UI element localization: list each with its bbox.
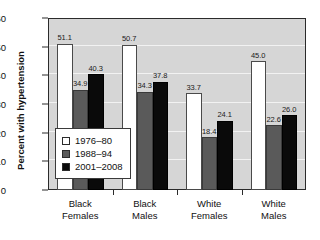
y-axis-tick-label: 40	[0, 70, 6, 81]
bar-rect	[202, 137, 218, 190]
bar[interactable]: 22.6	[266, 18, 282, 190]
chart-legend: 1976–801988–942001–2008	[55, 128, 131, 179]
legend-item-label: 1976–80	[75, 135, 112, 146]
y-axis-tick-label: 20	[0, 127, 6, 138]
bar-value-label: 40.3	[88, 65, 103, 73]
bar-group: 33.718.424.1	[186, 18, 233, 190]
y-axis-tick-label: 10	[0, 156, 6, 167]
x-axis-category-label: WhiteMales	[261, 198, 286, 221]
x-axis-tick-mark	[113, 190, 114, 195]
x-axis-category-line: Females	[191, 210, 227, 222]
bar-value-label: 26.0	[282, 106, 297, 114]
x-axis-category-line: Males	[261, 210, 286, 222]
bar-value-label: 37.8	[153, 72, 168, 80]
hypertension-bar-chart: Percent with hypertension 0102030405060 …	[0, 0, 320, 240]
y-axis-tick-label: 60	[0, 13, 6, 24]
bar-value-label: 45.0	[251, 52, 266, 60]
x-axis-category-line: Black	[132, 198, 157, 210]
bar-rect	[217, 121, 233, 190]
x-axis-tick-mark	[177, 190, 178, 195]
x-axis-category-line: White	[191, 198, 227, 210]
y-axis-tick-label: 30	[0, 99, 6, 110]
x-axis-category-line: Females	[62, 210, 98, 222]
bar-value-label: 34.3	[137, 82, 152, 90]
x-axis-category-label: BlackMales	[132, 198, 157, 221]
legend-swatch-icon	[62, 137, 70, 145]
legend-swatch-icon	[62, 163, 70, 171]
x-axis-ticks	[48, 190, 306, 196]
x-axis-category-line: White	[261, 198, 286, 210]
legend-item-label: 1988–94	[75, 148, 112, 159]
bar-value-label: 22.6	[266, 116, 281, 124]
bar-value-label: 34.9	[73, 80, 88, 88]
bar-value-label: 50.7	[122, 35, 137, 43]
bar-rect	[137, 92, 153, 190]
bar-value-label: 33.7	[186, 84, 201, 92]
bar-value-label: 51.1	[57, 34, 72, 42]
legend-item[interactable]: 1988–94	[62, 147, 123, 160]
bar-rect	[186, 93, 202, 190]
x-axis-category-label: WhiteFemales	[191, 198, 227, 221]
bar-value-label: 24.1	[217, 111, 232, 119]
bar-rect	[282, 115, 298, 190]
x-axis-category-line: Males	[132, 210, 157, 222]
bar[interactable]: 24.1	[217, 18, 233, 190]
bar[interactable]: 34.3	[137, 18, 153, 190]
bar[interactable]: 37.8	[153, 18, 169, 190]
bar-value-label: 18.4	[202, 128, 217, 136]
bar[interactable]: 45.0	[251, 18, 267, 190]
bar-rect	[251, 61, 267, 190]
y-axis-tick-label: 50	[0, 41, 6, 52]
bar[interactable]: 18.4	[202, 18, 218, 190]
x-axis-category-line: Black	[62, 198, 98, 210]
legend-item[interactable]: 1976–80	[62, 134, 123, 147]
x-axis-tick-mark	[242, 190, 243, 195]
bar[interactable]: 26.0	[282, 18, 298, 190]
y-axis-tick-label: 0	[0, 185, 6, 196]
y-axis-title: Percent with hypertension	[15, 31, 26, 191]
legend-swatch-icon	[62, 150, 70, 158]
bar-rect	[266, 125, 282, 190]
x-axis-category-label: BlackFemales	[62, 198, 98, 221]
bar-rect	[153, 82, 169, 190]
bar-group: 45.022.626.0	[251, 18, 298, 190]
bar[interactable]: 33.7	[186, 18, 202, 190]
legend-item-label: 2001–2008	[75, 161, 123, 172]
legend-item[interactable]: 2001–2008	[62, 160, 123, 173]
